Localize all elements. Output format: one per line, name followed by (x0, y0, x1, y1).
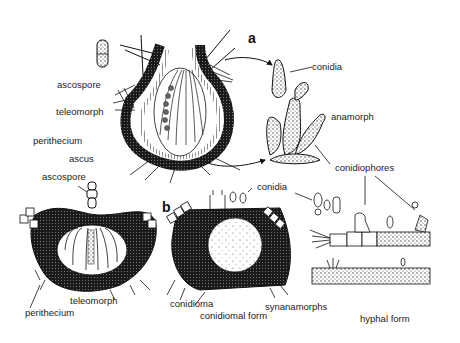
label-ascospore-bottom: ascospore (42, 172, 86, 182)
label-teleomorph-bottom: teleomorph (70, 296, 118, 306)
label-conidia-top: conidia (312, 62, 342, 72)
label-conidioma: conidioma (170, 299, 213, 309)
panel-label-b: b (162, 200, 171, 214)
label-hyphal-form: hyphal form (360, 314, 410, 324)
label-ascospore-top: ascospore (57, 80, 101, 90)
label-conidiophores: conidiophores (335, 163, 394, 173)
label-perithecium-bottom: perithecium (25, 308, 74, 318)
hyphal-form-drawing (295, 193, 430, 284)
perithecium-drawing-top (113, 30, 240, 183)
anamorph-drawing (267, 60, 330, 164)
label-synanamorphs: synanamorphs (265, 302, 327, 312)
label-ascus: ascus (69, 154, 94, 164)
fungal-life-cycle-figure: a b ascospore teleomorph perithecium asc… (0, 0, 460, 343)
label-conidia-bottom: conidia (257, 182, 287, 192)
conidioma-drawing (167, 188, 291, 305)
ascospore-bottom-drawing (87, 182, 97, 208)
perithecium-drawing-bottom (20, 208, 156, 308)
label-conidiomal-form: conidiomal form (200, 311, 267, 321)
label-teleomorph-top: teleomorph (56, 107, 104, 117)
label-perithecium-top: perithecium (33, 136, 82, 146)
label-anamorph: anamorph (331, 112, 374, 122)
ascospore-drawing (97, 40, 108, 67)
panel-label-a: a (248, 31, 256, 45)
